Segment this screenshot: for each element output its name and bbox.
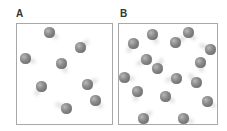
particle-icon [56,58,67,69]
particle-icon [202,96,213,107]
particle-icon [205,44,216,55]
panel-a-label: A [16,8,23,19]
particle-icon [132,86,143,97]
particle-icon [128,38,139,49]
particle-icon [82,79,93,90]
particle-icon [195,57,206,68]
particle-icon [90,95,101,106]
particle-icon [160,91,171,102]
particle-icon [141,54,152,65]
particle-icon [170,37,181,48]
particle-icon [147,29,158,40]
particle-icon [191,77,202,88]
particle-icon [138,113,149,124]
panel-b-label: B [120,8,127,19]
particle-icon [36,81,47,92]
particle-icon [75,42,86,53]
particle-icon [20,53,31,64]
particle-icon [61,103,72,114]
particle-icon [119,72,130,83]
particle-icon [152,63,163,74]
particle-icon [178,113,189,124]
particle-icon [183,27,194,38]
particle-icon [44,27,55,38]
particle-icon [171,73,182,84]
